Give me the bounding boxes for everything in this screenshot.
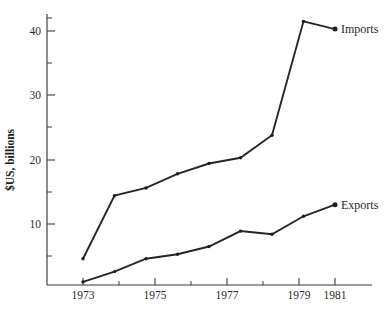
x-tick-label-1973: 1973 xyxy=(72,289,95,301)
data-point-marker xyxy=(270,233,273,236)
data-point-marker xyxy=(176,253,179,256)
data-point-marker xyxy=(239,229,242,232)
y-tick-label-30: 30 xyxy=(30,89,42,101)
data-point-marker xyxy=(239,156,242,159)
series-line-exports xyxy=(83,205,335,282)
data-point-marker xyxy=(81,280,84,283)
series-markers-imports xyxy=(81,20,337,261)
x-tick-label-1981: 1981 xyxy=(324,289,347,301)
series-label-imports: Imports xyxy=(341,22,379,36)
data-point-marker xyxy=(81,257,84,260)
x-tick-label-1979: 1979 xyxy=(288,289,311,301)
data-point-marker xyxy=(270,134,273,137)
series-end-marker xyxy=(333,202,338,207)
data-point-marker xyxy=(176,172,179,175)
y-tick-label-40: 40 xyxy=(30,25,42,37)
y-axis-minor-ticks xyxy=(47,18,52,256)
series-label-exports: Exports xyxy=(341,198,379,212)
chart-page: 40 30 20 10 1973 1975 1977 1979 1981 $US… xyxy=(0,0,387,310)
data-point-marker xyxy=(207,162,210,165)
data-point-marker xyxy=(302,20,305,23)
x-tick-label-1977: 1977 xyxy=(216,289,239,301)
series-markers-exports xyxy=(81,202,337,283)
data-point-marker xyxy=(207,245,210,248)
y-tick-label-10: 10 xyxy=(30,218,42,230)
data-point-marker xyxy=(144,257,147,260)
y-tick-label-20: 20 xyxy=(30,154,42,166)
data-point-marker xyxy=(302,215,305,218)
x-tick-label-1975: 1975 xyxy=(144,289,167,301)
series-line-imports xyxy=(83,21,335,258)
x-axis-minor-ticks xyxy=(119,281,263,285)
data-point-marker xyxy=(144,186,147,189)
data-point-marker xyxy=(113,194,116,197)
y-axis-title: $US, billions xyxy=(4,128,16,191)
data-point-marker xyxy=(113,270,116,273)
series-end-marker xyxy=(333,27,338,32)
line-chart: 40 30 20 10 1973 1975 1977 1979 1981 $US… xyxy=(0,0,387,310)
x-axis-major-ticks xyxy=(83,278,335,285)
